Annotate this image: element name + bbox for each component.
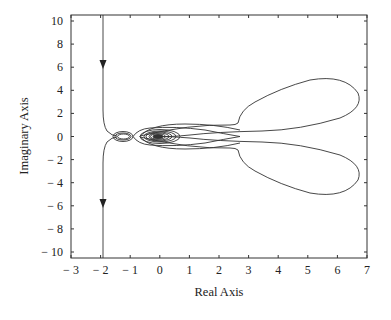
upper-asymptote-curve [103,15,117,136]
x-tick-label: 1 [186,263,192,277]
x-tick-label: − 3 [63,263,79,277]
y-tick-label: 4 [57,83,63,97]
x-tick-label: 3 [246,263,252,277]
y-tick-label: 2 [57,106,63,120]
x-axis-title: Real Axis [195,285,244,299]
small-loop-inner-2 [118,134,130,139]
y-tick-label: 6 [57,60,63,74]
y-tick-label: − 2 [47,153,63,167]
direction-arrow-upper-icon [100,60,107,69]
x-tick-label: 0 [157,263,163,277]
x-tick-label: − 1 [122,263,138,277]
y-tick-label: − 4 [47,176,63,190]
y-tick-label: − 6 [47,199,63,213]
y-axis-ticks: 1086420− 2− 4− 6− 8− 10 [41,14,367,259]
y-tick-label: − 8 [47,222,63,236]
y-tick-label: 0 [57,130,63,144]
x-tick-label: 2 [216,263,222,277]
lower-asymptote-curve [103,137,117,258]
x-tick-label: 5 [305,263,311,277]
upper-big-loop [140,79,359,137]
y-tick-label: 10 [51,14,63,28]
nyquist-curves [103,15,359,258]
x-axis-ticks: − 3− 2− 101234567 [63,15,370,277]
y-axis-title: Imaginary Axis [17,97,31,175]
y-tick-label: − 10 [41,245,63,259]
nyquist-chart: − 3− 2− 101234567 1086420− 2− 4− 6− 8− 1… [0,0,391,320]
x-tick-label: 7 [364,263,370,277]
x-tick-label: 6 [334,263,340,277]
y-tick-label: 8 [57,37,63,51]
x-tick-label: 4 [275,263,281,277]
direction-arrow-lower-icon [100,199,107,208]
x-tick-label: − 2 [93,263,109,277]
